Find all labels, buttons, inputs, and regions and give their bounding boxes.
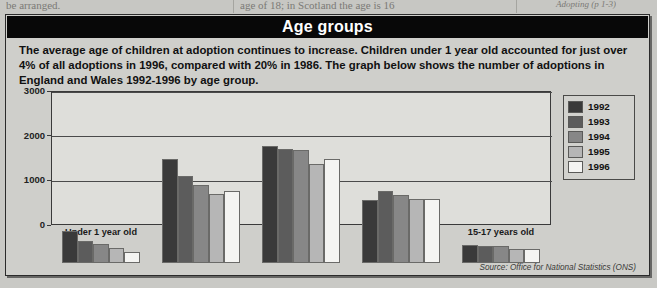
- legend-label: 1992: [588, 101, 610, 112]
- chart-legend: 19921993199419951996: [563, 95, 635, 180]
- legend-swatch: [568, 161, 583, 173]
- legend-swatch: [568, 131, 583, 143]
- legend-item[interactable]: 1995: [568, 145, 631, 160]
- y-axis-tick-mark: [47, 135, 51, 136]
- bar: [509, 249, 525, 263]
- bar: [278, 149, 294, 263]
- page-bleed-strip: be arranged. age of 18; in Scotland the …: [0, 0, 657, 15]
- y-axis-tick-label: 0: [18, 219, 45, 230]
- legend-label: 1994: [588, 131, 610, 142]
- gridline: [52, 92, 552, 93]
- bar: [409, 199, 425, 263]
- legend-label: 1993: [588, 116, 610, 127]
- bar: [224, 191, 240, 263]
- bleed-column-rule: [516, 0, 517, 13]
- bar: [309, 164, 325, 263]
- y-axis-tick-mark: [47, 91, 51, 92]
- y-axis-tick-label: 2000: [18, 130, 45, 141]
- legend-swatch: [568, 101, 583, 113]
- bar: [62, 231, 78, 263]
- infographic-panel: Age groups The average age of children a…: [5, 14, 650, 276]
- bar: [93, 244, 109, 263]
- intro-paragraph: The average age of children at adoption …: [19, 43, 637, 89]
- bar: [493, 246, 509, 263]
- bar-group: [62, 130, 140, 263]
- legend-item[interactable]: 1992: [568, 100, 631, 115]
- bleed-text-middle: age of 18; in Scotland the age is 16: [240, 0, 395, 11]
- y-axis-tick-label: 1000: [18, 174, 45, 185]
- bar-group: [162, 130, 240, 263]
- bleed-text-left: be arranged.: [6, 0, 60, 11]
- bar-group: [262, 130, 340, 263]
- bar-group: [362, 130, 440, 263]
- y-axis-tick-mark: [47, 225, 51, 226]
- bar: [109, 248, 125, 263]
- bar: [78, 241, 94, 263]
- bar: [524, 249, 540, 263]
- bar: [124, 252, 140, 263]
- bar: [393, 195, 409, 263]
- y-axis-tick-mark: [47, 180, 51, 181]
- legend-item[interactable]: 1994: [568, 130, 631, 145]
- page-title: Age groups: [7, 18, 648, 36]
- legend-swatch: [568, 146, 583, 158]
- bar: [262, 146, 278, 263]
- panel-title-bar: Age groups: [7, 16, 648, 38]
- bar: [424, 199, 440, 263]
- legend-item[interactable]: 1996: [568, 160, 631, 175]
- bar: [378, 191, 394, 263]
- bar: [209, 194, 225, 263]
- bar: [293, 150, 309, 263]
- bar: [362, 200, 378, 263]
- bar-chart: 0100020003000Under 1 year old1-4 years o…: [18, 91, 638, 263]
- bar: [462, 245, 478, 263]
- legend-label: 1996: [588, 161, 610, 172]
- bleed-text-right: Adopting (p 1-3): [556, 0, 616, 9]
- source-attribution: Source: Office for National Statistics (…: [479, 263, 636, 272]
- legend-swatch: [568, 116, 583, 128]
- bar: [193, 185, 209, 263]
- bleed-column-rule: [233, 0, 234, 13]
- legend-item[interactable]: 1993: [568, 115, 631, 130]
- bar: [478, 246, 494, 263]
- bar: [162, 159, 178, 263]
- bar: [324, 159, 340, 263]
- legend-label: 1995: [588, 146, 610, 157]
- y-axis-tick-label: 3000: [18, 85, 45, 96]
- bar: [178, 176, 194, 263]
- bar-group: [462, 130, 540, 263]
